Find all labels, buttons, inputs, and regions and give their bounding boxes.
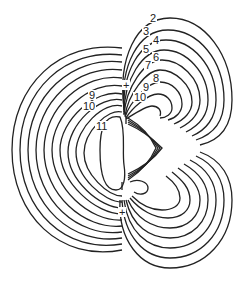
contour-label-7: 7 [144,60,152,70]
contour-label-4: 4 [152,35,160,45]
plus-marker-lower: + [118,207,126,217]
contour-label-3: 3 [142,26,150,36]
contour-label-9-left: 9 [88,90,96,100]
contour-label-11: 11 [95,121,108,131]
contour-label-2: 2 [149,13,157,23]
plus-marker-upper: + [122,80,130,90]
central-dense-contours [122,116,162,190]
contour-label-6: 6 [152,52,160,62]
contour-label-5: 5 [142,44,150,54]
left-lobe-contours [12,47,125,252]
contour-label-10-right: 10 [133,92,147,102]
contour-label-8: 8 [152,73,160,83]
contour-label-10-left: 10 [82,101,96,111]
contour-plot [0,0,242,285]
